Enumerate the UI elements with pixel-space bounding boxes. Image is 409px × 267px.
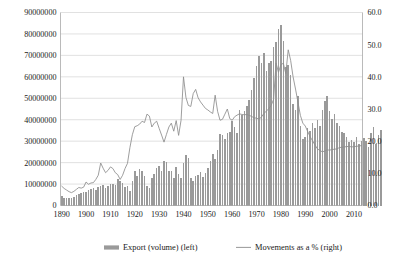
bar xyxy=(341,132,343,206)
legend-label: Export (volume) (left) xyxy=(123,243,198,252)
bar xyxy=(227,133,229,205)
x-axis-tick-label: 1950 xyxy=(200,210,216,219)
bar xyxy=(273,47,275,205)
bar xyxy=(239,110,241,206)
bar xyxy=(268,63,270,205)
bar xyxy=(326,96,328,206)
bar xyxy=(339,126,341,205)
bar xyxy=(241,115,243,206)
bar xyxy=(151,178,153,205)
bar xyxy=(76,195,78,205)
bar xyxy=(295,110,297,205)
bar xyxy=(256,66,258,206)
bar xyxy=(309,131,311,206)
bar xyxy=(192,181,194,205)
bar xyxy=(68,198,70,205)
bar xyxy=(205,173,207,206)
bar xyxy=(263,53,265,206)
x-axis-tick-label: 1920 xyxy=(127,210,143,219)
bar xyxy=(207,168,209,205)
x-axis-tick-label: 1990 xyxy=(297,210,313,219)
bar xyxy=(188,158,190,206)
bar xyxy=(141,171,143,205)
bar xyxy=(322,110,324,206)
bar xyxy=(175,167,177,205)
bar xyxy=(212,154,214,206)
bar xyxy=(314,128,316,205)
bar xyxy=(280,25,282,206)
bar xyxy=(144,176,146,206)
bar xyxy=(324,101,326,206)
y-axis-left-tick-label: 10000000 xyxy=(24,180,56,189)
bar xyxy=(246,106,248,206)
bar xyxy=(261,63,263,205)
x-axis-tick-label: 1910 xyxy=(102,210,118,219)
bar xyxy=(100,186,102,206)
bar xyxy=(317,120,319,206)
bar xyxy=(110,184,112,206)
bar xyxy=(331,119,333,206)
bar xyxy=(190,178,192,205)
bar xyxy=(115,185,117,205)
x-axis-tick-label: 1960 xyxy=(224,210,240,219)
bar xyxy=(63,198,65,206)
y-axis-right-tick-label: 60.0 xyxy=(368,8,382,17)
bar xyxy=(361,141,363,206)
bar xyxy=(95,190,97,206)
bar xyxy=(343,133,345,206)
bar xyxy=(119,181,121,205)
bar xyxy=(319,126,321,206)
bar xyxy=(302,139,304,206)
bar xyxy=(122,183,124,205)
bar xyxy=(234,127,236,205)
bar xyxy=(93,188,95,206)
bar xyxy=(278,29,280,205)
bar xyxy=(88,190,90,205)
bar xyxy=(83,192,85,205)
y-axis-left-tick-label: 80000000 xyxy=(24,30,56,39)
bar xyxy=(253,78,255,205)
y-axis-left-tick-label: 40000000 xyxy=(24,116,56,125)
y-axis-left-tick-label: 50000000 xyxy=(24,94,56,103)
bar xyxy=(358,144,360,206)
bar xyxy=(146,186,148,206)
bar xyxy=(300,126,302,205)
bar xyxy=(158,166,160,206)
y-axis-right-tick-label: 40.0 xyxy=(368,73,382,82)
bar xyxy=(353,142,355,205)
bar xyxy=(244,111,246,205)
bar xyxy=(107,186,109,206)
bar xyxy=(90,189,92,205)
bar xyxy=(78,194,80,205)
bar xyxy=(334,114,336,205)
x-axis-tick-label: 1900 xyxy=(78,210,94,219)
bar xyxy=(197,175,199,205)
bar xyxy=(139,169,141,206)
y-axis-right-tick-label: 10.0 xyxy=(368,169,382,178)
bar xyxy=(66,198,68,206)
bar xyxy=(178,174,180,206)
y-axis-left-tick-label: 20000000 xyxy=(24,159,56,168)
x-axis-tick-label: 1930 xyxy=(151,210,167,219)
bar xyxy=(180,178,182,206)
x-axis-tick-label: 1970 xyxy=(249,210,265,219)
bar xyxy=(132,181,134,206)
bar xyxy=(290,75,292,205)
bar xyxy=(80,193,82,205)
bar xyxy=(171,171,173,205)
bar xyxy=(85,192,87,206)
legend-label: Movements as a % (right) xyxy=(255,243,342,252)
bar xyxy=(222,135,224,206)
bar xyxy=(231,121,233,206)
bar xyxy=(219,134,221,206)
chart-background xyxy=(0,0,409,267)
bar xyxy=(292,104,294,206)
bar xyxy=(105,188,107,205)
y-axis-left-tick-label: 60000000 xyxy=(24,73,56,82)
bar xyxy=(287,65,289,205)
y-axis-right-tick-label: 50.0 xyxy=(368,41,382,50)
y-axis-right-tick-label: 0.0 xyxy=(368,201,378,210)
bar xyxy=(363,138,365,205)
bar xyxy=(210,161,212,205)
bar xyxy=(236,133,238,205)
